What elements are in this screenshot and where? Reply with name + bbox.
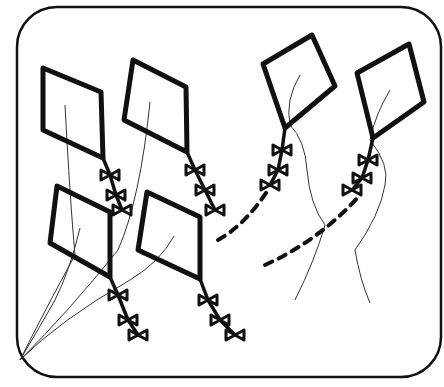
tail-bow-icon [138, 330, 147, 340]
dashed-strings [218, 190, 360, 265]
kite-tail [200, 279, 235, 335]
kite-bottom-middle [138, 192, 244, 340]
kite-strings-left [20, 102, 174, 360]
kite-top-right-1 [261, 35, 335, 190]
kite-tail [187, 152, 215, 210]
kite-tail [110, 277, 138, 335]
kite-body [263, 35, 335, 128]
kite-top-right-2 [343, 44, 424, 195]
kites-illustration [0, 0, 444, 387]
kite-body [124, 60, 187, 152]
kite-body [138, 192, 200, 279]
kite-tail [103, 158, 122, 210]
tail-bow-icon [235, 330, 244, 340]
kite-body [43, 68, 103, 158]
kite-body [50, 186, 110, 277]
tail-bow-icon [215, 205, 224, 215]
kite-top-middle [124, 60, 224, 215]
kite-tail [270, 128, 285, 185]
kite-body [357, 44, 424, 138]
kites-drawing [0, 0, 444, 387]
tail-bow-icon [122, 205, 131, 215]
